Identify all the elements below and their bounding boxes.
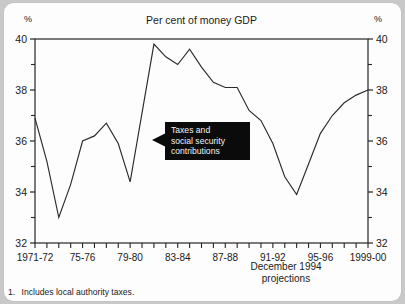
y-tick-label: 32	[15, 237, 27, 249]
x-tick-label: 83-84	[165, 252, 191, 263]
projection-note-line-1: December 1994	[250, 261, 321, 273]
footnote-number: 1.	[8, 287, 15, 297]
callout-line-2: social security	[171, 136, 246, 147]
x-tick-label: 1999-00	[350, 252, 387, 263]
y-axis-ticks-right: 3234363840	[368, 33, 388, 249]
y-tick-label: 38	[376, 84, 388, 96]
y-tick-label: 36	[15, 135, 27, 147]
y-tick-label: 34	[15, 186, 27, 198]
callout-arrow-icon	[152, 133, 166, 147]
callout-line-3: contributions	[171, 146, 246, 157]
series-callout-label: Taxes and social security contributions	[165, 122, 250, 160]
footnote-text: Includes local authority taxes.	[22, 287, 135, 297]
y-tick-label: 32	[376, 237, 388, 249]
projection-note: December 1994 projections	[250, 261, 321, 284]
footnote: 1. Includes local authority taxes.	[8, 287, 134, 297]
y-tick-label: 36	[376, 135, 388, 147]
x-tick-label: 75-76	[70, 252, 96, 263]
x-tick-label: 1971-72	[17, 252, 54, 263]
x-tick-label: 79-80	[117, 252, 143, 263]
y-tick-label: 40	[376, 33, 388, 45]
callout-line-1: Taxes and	[171, 125, 246, 136]
y-tick-label: 38	[15, 84, 27, 96]
y-tick-label: 34	[376, 186, 388, 198]
x-axis-ticks: 1971-7275-7679-8083-8487-8891-9295-96199…	[17, 243, 387, 263]
projection-note-line-2: projections	[250, 273, 321, 285]
x-tick-label: 87-88	[212, 252, 238, 263]
y-axis-ticks-left: 3234363840	[15, 33, 35, 249]
y-tick-label: 40	[15, 33, 27, 45]
